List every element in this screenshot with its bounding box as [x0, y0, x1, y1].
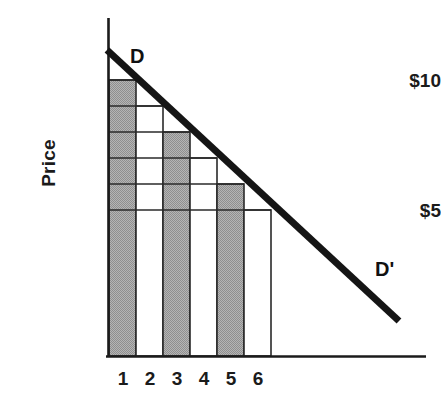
bar-4: [190, 158, 217, 356]
bars-group: [109, 80, 271, 356]
price-demand-chart: Price $10 $5 1 2 3 4 5 6 D D': [0, 0, 441, 411]
bar-1: [109, 80, 136, 356]
bar-6: [244, 210, 271, 356]
bar-3: [163, 132, 190, 356]
chart-canvas: [0, 0, 441, 411]
bar-2: [136, 106, 163, 356]
